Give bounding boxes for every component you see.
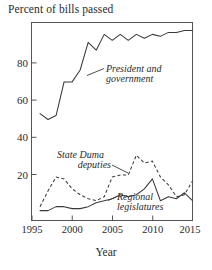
chart-page: Percent of bills passed 80 60 40 20 1995… [0,0,212,270]
x-tick-label-2010: 2010 [142,224,163,235]
y-axis-ticks [32,63,37,175]
x-tick-label-1995: 1995 [22,224,43,235]
plot-frame [32,23,193,221]
x-axis-label: Year [0,246,212,258]
leader-line-president [87,69,104,76]
x-tick-label-2005: 2005 [102,224,123,235]
y-tick-label-20: 20 [17,169,29,181]
y-tick-label-60: 60 [17,94,29,106]
annotation-regional-line2: legislatures [117,201,163,212]
annotation-president-line2: government [106,73,153,84]
leader-line-regional [108,197,116,201]
x-tick-label-2000: 2000 [62,224,83,235]
line-chart: 80 60 40 20 1995 2000 2005 2010 2015 Pre… [0,0,212,270]
x-axis-ticks [32,216,193,221]
x-tick-label-2015: 2015 [180,224,201,235]
leader-line-duma [112,165,128,173]
y-tick-label-80: 80 [17,57,29,69]
annotation-duma-line2: deputies [78,159,111,170]
y-tick-label-40: 40 [17,131,29,143]
